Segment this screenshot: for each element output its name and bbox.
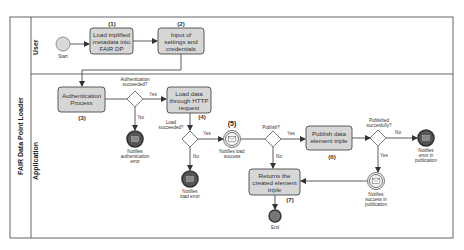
svg-text:created element: created element [252, 179, 297, 186]
bpmn-diagram: FAIR Data Point Loader User Application … [0, 0, 464, 250]
end-event-auth-error: Notifies authentication error [121, 131, 150, 164]
task-authentication-process: Authentication Process (3) [58, 87, 105, 121]
svg-text:load error: load error [180, 194, 200, 199]
intermediate-event-load-success: (5) Notifies load success [219, 120, 245, 159]
svg-text:request: request [179, 104, 200, 111]
end-event-load-error: Notifies load error [180, 171, 200, 199]
svg-text:(2): (2) [177, 20, 185, 27]
gateway-authentication-succeeded: Authentication succeeded? Yes No [120, 77, 157, 120]
svg-text:(3): (3) [78, 114, 86, 121]
svg-text:No: No [276, 154, 282, 159]
svg-text:Authentication: Authentication [62, 92, 102, 99]
task-load-data-http: Load data through HTTP request (4) [167, 87, 211, 120]
end-event-publication-error: Notifies error in publication [415, 130, 437, 163]
svg-text:(1): (1) [108, 20, 116, 27]
task-returns-created-element-triple: Returns the created element triple (7) [249, 169, 300, 203]
svg-text:No: No [193, 154, 199, 159]
svg-text:Publish?: Publish? [262, 125, 280, 130]
svg-text:Publish data: Publish data [312, 130, 347, 137]
svg-text:(6): (6) [328, 153, 336, 160]
task-input-settings-credentials: Input of settings and credentials (2) [158, 20, 204, 54]
task-load-triplified-metadata: Load triplified metadata into FAIR DP (1… [90, 20, 133, 54]
svg-text:error: error [130, 159, 140, 164]
svg-text:element triple: element triple [310, 137, 348, 144]
svg-text:FAIR DP: FAIR DP [99, 45, 123, 52]
svg-text:succeeded?: succeeded? [123, 82, 148, 87]
svg-text:Yes: Yes [287, 131, 295, 136]
svg-text:succesfully?: succesfully? [366, 123, 391, 128]
start-event: Start [56, 37, 70, 59]
intermediate-event-publication-success: Notifies success in publication [365, 173, 387, 208]
svg-text:Load data: Load data [175, 90, 203, 97]
svg-text:End: End [271, 225, 280, 230]
lane-label-application: Application [32, 142, 40, 180]
svg-text:(4): (4) [198, 113, 206, 120]
svg-text:Input of: Input of [171, 31, 192, 38]
svg-text:credentials: credentials [166, 45, 196, 52]
svg-text:Load triplified: Load triplified [93, 31, 130, 38]
svg-text:Yes: Yes [203, 131, 211, 136]
task-publish-data-element-triple: Publish data element triple (6) [306, 126, 352, 160]
svg-text:Returns the: Returns the [259, 172, 292, 179]
svg-text:triple: triple [268, 186, 282, 193]
svg-text:success: success [224, 154, 241, 159]
svg-text:No: No [395, 130, 401, 135]
svg-text:settings and: settings and [164, 38, 198, 45]
svg-text:succeeded?: succeeded? [159, 125, 184, 130]
end-event: End [269, 210, 281, 230]
svg-text:Yes: Yes [149, 92, 157, 97]
svg-text:Process: Process [70, 99, 92, 106]
svg-text:metadata into: metadata into [93, 38, 131, 45]
svg-text:(7): (7) [286, 196, 294, 203]
gateway-publish: Publish? Yes No [262, 125, 295, 159]
svg-text:publication: publication [415, 158, 437, 163]
svg-text:publication: publication [365, 202, 387, 207]
svg-text:No: No [138, 115, 144, 120]
svg-text:through HTTP: through HTTP [170, 97, 209, 104]
svg-text:Start: Start [58, 54, 68, 59]
gateway-load-succeeded: Load succeeded? Yes No [159, 120, 212, 159]
sequence-flows [70, 41, 417, 209]
svg-text:(5): (5) [228, 120, 237, 128]
pool-title: FAIR Data Point Loader [17, 97, 24, 175]
lane-label-user: User [32, 39, 39, 55]
svg-text:Yes: Yes [380, 153, 388, 158]
